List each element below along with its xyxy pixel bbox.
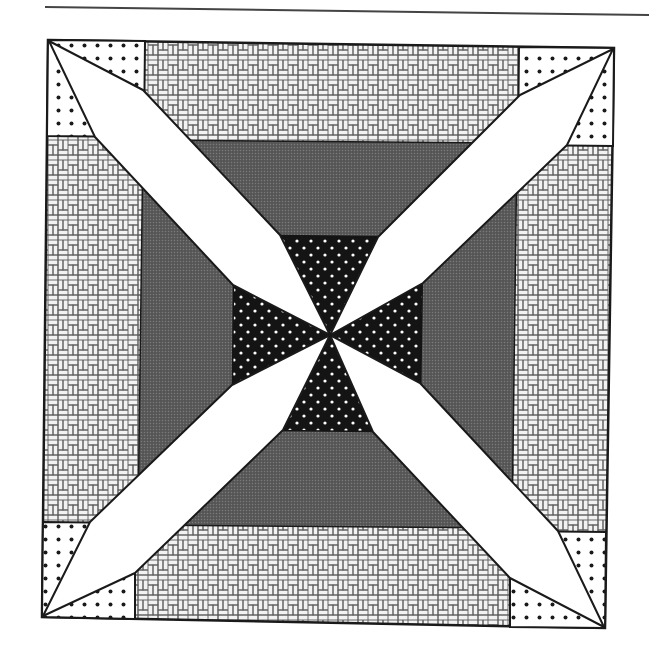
center-point xyxy=(328,333,332,337)
quilt-block-diagram xyxy=(0,0,649,664)
top-rule-line xyxy=(45,7,649,15)
